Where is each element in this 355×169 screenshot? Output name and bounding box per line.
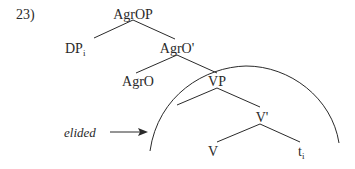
example-number: 23) xyxy=(16,7,35,23)
node-v-bar: V' xyxy=(256,110,269,125)
ellipsis-arc xyxy=(150,66,339,151)
node-agro-bar: AgrO' xyxy=(160,41,194,56)
elided-label: elided xyxy=(64,125,96,140)
node-vp: VP xyxy=(208,74,226,89)
node-v: V xyxy=(208,144,218,159)
syntax-tree-diagram: 23) AgrOP DPi AgrO' AgrO VP V' V ti elid… xyxy=(0,0,355,169)
branch-agrop-dp xyxy=(94,20,133,38)
branch-vbar-v xyxy=(217,124,260,142)
branch-agrop-agrobar xyxy=(133,20,175,39)
branch-agrobar-vp xyxy=(177,55,217,73)
node-agro: AgrO xyxy=(122,74,154,89)
branch-vbar-trace xyxy=(260,124,300,142)
node-trace: ti xyxy=(298,144,305,161)
branch-agrobar-agro xyxy=(136,55,177,73)
node-dp: DPi xyxy=(65,41,86,58)
node-agrop: AgrOP xyxy=(113,7,153,22)
branch-vp-vbar xyxy=(217,88,260,107)
